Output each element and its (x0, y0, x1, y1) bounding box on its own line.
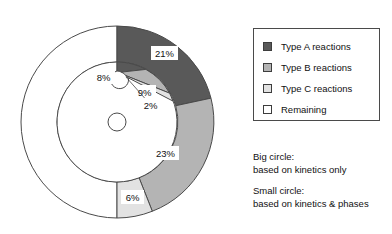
outer-label-type-c-text: 6% (126, 192, 140, 203)
legend-swatch-type-a-icon (263, 42, 272, 51)
inner-label-type-c-text: 2% (144, 100, 158, 111)
outer-label-type-a-text: 21% (155, 48, 175, 59)
legend-swatch-type-c-icon (263, 84, 272, 93)
legend-label-type-a: Type A reactions (281, 41, 351, 52)
legend-swatch-type-b-icon (263, 63, 272, 72)
inner-label-type-a-text: 8% (97, 72, 111, 83)
legend-list: Type A reactions Type B reactions Type C… (263, 36, 375, 120)
note-small-circle-heading: Small circle: (253, 185, 392, 198)
note-small-circle-body: based on kinetics & phases (253, 198, 392, 211)
legend-label-remaining: Remaining (281, 104, 326, 115)
outer-label-type-b: 23% (152, 146, 179, 160)
note-big-circle: Big circle: based on kinetics only (253, 151, 392, 176)
inner-label-type-a: 8% (92, 70, 115, 84)
legend-item-remaining: Remaining (263, 99, 375, 120)
inner-pie (57, 62, 177, 182)
inner-label-type-b: 9% (133, 85, 156, 99)
legend-swatch-remaining-icon (263, 105, 272, 114)
note-small-circle: Small circle: based on kinetics & phases (253, 185, 392, 210)
pie-chart-figure: 21% 23% 6% 8% 9% 2% Type A (0, 0, 392, 234)
outer-label-type-a: 21% (151, 46, 178, 60)
legend-item-type-a: Type A reactions (263, 36, 375, 57)
legend-item-type-b: Type B reactions (263, 57, 375, 78)
double-donut-chart: 21% 23% 6% 8% 9% 2% (0, 0, 240, 234)
outer-label-type-b-text: 23% (156, 148, 176, 159)
chart-notes: Big circle: based on kinetics only Small… (253, 151, 392, 219)
legend-item-type-c: Type C reactions (263, 78, 375, 99)
note-big-circle-body: based on kinetics only (253, 164, 392, 177)
pie-hub (108, 113, 126, 131)
chart-legend: Type A reactions Type B reactions Type C… (253, 28, 380, 121)
note-big-circle-heading: Big circle: (253, 151, 392, 164)
legend-label-type-c: Type C reactions (281, 83, 352, 94)
outer-label-type-c: 6% (121, 190, 144, 204)
legend-label-type-b: Type B reactions (281, 62, 352, 73)
